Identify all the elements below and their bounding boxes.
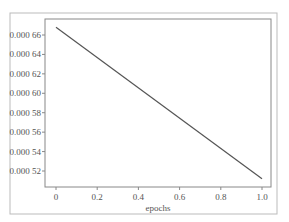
x-tick-label: 0.6 [174, 192, 186, 202]
x-tick-label: 0.8 [215, 192, 227, 202]
y-tick-label: 0.000 66 [10, 30, 42, 40]
y-tick-label: 0.000 60 [10, 88, 42, 98]
y-tick-label: 0.000 54 [10, 147, 42, 157]
y-tick-label: 0.000 56 [10, 127, 42, 137]
y-tick-label: 0.000 62 [10, 69, 42, 79]
line-chart: 00.20.40.60.81.00.000 520.000 540.000 56… [0, 0, 289, 222]
x-axis-label: epochs [146, 203, 171, 213]
y-tick-label: 0.000 58 [10, 108, 42, 118]
x-tick-label: 0.2 [92, 192, 103, 202]
outer-frame [10, 13, 277, 214]
x-tick-label: 0 [54, 192, 59, 202]
x-tick-label: 0.4 [133, 192, 145, 202]
y-tick-label: 0.000 64 [10, 49, 42, 59]
y-tick-label: 0.000 52 [10, 166, 42, 176]
x-tick-label: 1.0 [256, 192, 268, 202]
